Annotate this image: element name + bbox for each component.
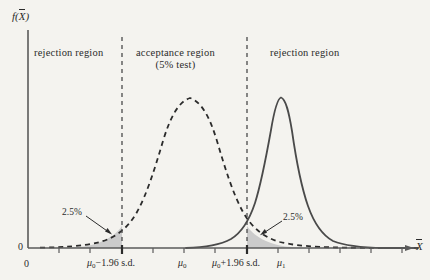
y-axis-xbar-symbol: X [19,10,26,23]
acceptance-region-label: acceptance region (5% test) [136,47,215,71]
tick-label-mu-alt: μ1 [277,257,286,269]
right-tail-percent-label: 2.5% [283,212,303,223]
x-axis-origin-label: 0 [24,258,29,270]
alternative-distribution-curve [186,98,418,249]
acceptance-region-label-line2: (5% test) [136,59,215,71]
tick-label-lower-critical: μ0−1.96 s.d. [87,257,135,269]
x-axis-arrowhead [405,245,414,251]
y-axis-title: f(X) [12,10,29,23]
tick-label-upper-critical: μ0+1.96 s.d. [212,257,260,269]
plot-canvas [0,0,430,280]
left-tail-percent-label: 2.5% [62,207,82,218]
acceptance-region-label-line1: acceptance region [136,47,215,59]
null-distribution-curve [40,98,418,248]
y-axis-origin-label: 0 [18,241,23,253]
right-rejection-region-label: rejection region [270,47,339,59]
left-rejection-region-label: rejection region [34,47,103,59]
tick-label-mu-null: μ0 [178,257,187,269]
left-tail-leader-arrowhead [105,228,112,235]
x-axis-xbar-symbol: X [416,240,423,253]
x-axis-title: X [416,240,423,253]
statistical-hypothesis-test-figure: f(X) X 0 0 rejection region acceptance r… [0,0,430,280]
